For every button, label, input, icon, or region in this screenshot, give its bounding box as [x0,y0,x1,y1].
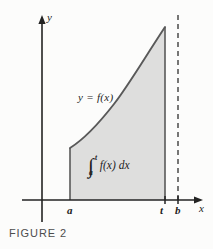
tick-label-b: b [175,205,181,216]
shaded-area-under-curve [70,27,165,200]
integral-sign-icon: ∫ t a [88,158,94,175]
curve-equation-label: y = f(x) [78,92,113,103]
figure-graphic [0,0,213,249]
figure-caption: FIGURE 2 [9,227,67,239]
integral-integrand: f(x) [100,160,116,172]
figure-container: y x a t b y = f(x) ∫ t a f(x) dx FIGURE … [0,0,213,249]
integral-lower-limit: a [89,170,93,176]
y-axis-arrow-icon [38,15,45,24]
y-axis-label: y [47,12,52,23]
integral-expression-label: ∫ t a f(x) dx [88,157,130,174]
x-axis-label: x [199,203,204,214]
integral-upper-limit: t [95,155,97,161]
tick-label-t: t [160,205,163,216]
tick-label-a: a [67,205,73,216]
integral-differential: dx [119,160,130,172]
